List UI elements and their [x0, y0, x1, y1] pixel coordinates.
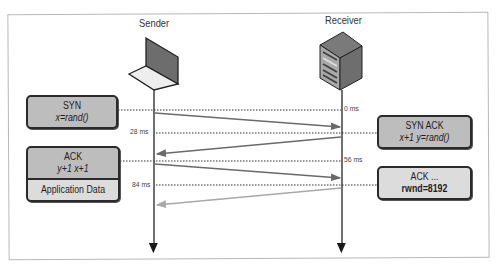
ack-rwnd-box: ACK ... rwnd=8192 — [377, 166, 472, 200]
application-data-box: Application Data — [26, 178, 120, 202]
ack-box-title: ACK — [33, 151, 112, 163]
syn-ack-box: SYN ACK x+1 y=rand() — [377, 115, 472, 149]
laptop-icon — [129, 38, 178, 90]
ack-arrow — [155, 164, 340, 178]
receiver-label: Receiver — [325, 14, 362, 26]
timestamp-0ms: 0 ms — [344, 104, 359, 113]
syn-ack-box-detail: x+1 y=rand() — [384, 132, 464, 144]
ack-rwnd-box-title: ACK ... — [384, 171, 464, 183]
syn-box: SYN x=rand() — [26, 95, 118, 129]
ack-box: ACK y+1 x+1 — [26, 146, 120, 180]
ack-box-detail: y+1 x+1 — [33, 163, 112, 175]
timestamp-84ms: 84 ms — [132, 180, 151, 189]
syn-ack-arrow — [157, 137, 341, 154]
data-ack-arrow — [157, 188, 341, 205]
server-icon — [320, 32, 362, 90]
syn-box-detail: x=rand() — [33, 112, 110, 124]
ack-rwnd-box-detail: rwnd=8192 — [384, 183, 464, 195]
syn-arrow — [155, 113, 340, 127]
syn-ack-box-title: SYN ACK — [384, 120, 464, 132]
sender-label: Sender — [139, 17, 169, 29]
timestamp-28ms: 28 ms — [130, 127, 149, 136]
application-data-label: Application Data — [33, 184, 112, 196]
timestamp-56ms: 56 ms — [344, 155, 363, 164]
syn-box-title: SYN — [33, 100, 110, 112]
